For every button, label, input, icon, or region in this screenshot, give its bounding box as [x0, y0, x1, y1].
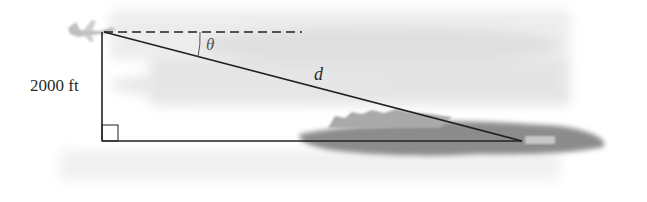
right-angle-marker: [102, 125, 118, 141]
hypotenuse-label: d: [314, 64, 323, 85]
diagram-svg: [0, 0, 647, 202]
diagram-canvas: 2000 ft θ d: [0, 0, 647, 202]
height-label: 2000 ft: [30, 76, 79, 96]
island: [299, 109, 604, 156]
airplane-icon: [68, 20, 116, 42]
sky-haze: [60, 10, 570, 180]
angle-label: θ: [206, 35, 214, 55]
